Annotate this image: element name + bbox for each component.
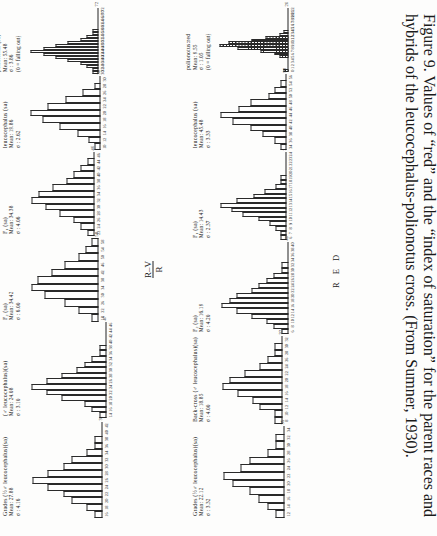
plot-area-red-grades: 35 bbox=[214, 426, 284, 518]
category-tick: 26 bbox=[96, 218, 100, 222]
category-tick: 20 bbox=[104, 499, 108, 503]
histogram-bar bbox=[260, 50, 288, 53]
category-tick: 7 bbox=[288, 232, 292, 234]
histogram-bar bbox=[259, 363, 282, 370]
plot-area-red-polionotus: 26 bbox=[214, 8, 288, 72]
category-tick: 46 bbox=[108, 323, 112, 327]
category-tick: 38 bbox=[108, 345, 112, 349]
category-tick: 54 bbox=[288, 81, 292, 85]
histogram-bar bbox=[80, 165, 94, 171]
category-tick: 6 bbox=[290, 53, 294, 55]
panel-header-red-f2: F₂ (sa)Mean: 16.19σ : 4.20 bbox=[191, 304, 211, 332]
panel-stat-0: Mean: 16.19 bbox=[197, 304, 204, 332]
category-scale-sat-f1: 22242628303234363840424446 bbox=[96, 152, 102, 236]
histogram-bar bbox=[84, 401, 106, 407]
category-tick: 10 bbox=[290, 319, 294, 323]
histogram-bar bbox=[61, 395, 106, 401]
histogram-bar bbox=[31, 384, 106, 390]
category-scale-red-backcross: 8101214161820222426283032 bbox=[284, 336, 290, 424]
axis-end-tick: 58 bbox=[282, 68, 287, 72]
category-tick: 24 bbox=[108, 385, 112, 389]
category-tick: 20 bbox=[108, 396, 112, 400]
histogram-bar bbox=[249, 457, 284, 465]
category-tick: 34 bbox=[104, 451, 108, 455]
category-tick: 38 bbox=[100, 278, 104, 282]
axis-end-tick: 58 bbox=[94, 232, 99, 236]
category-tick: 14 bbox=[286, 504, 290, 508]
category-tick: 44 bbox=[108, 328, 112, 332]
histogram-sat-polionotus: polionotus (sa)Mean: 55.48σ : 3.86(0 = f… bbox=[24, 8, 98, 74]
histogram-bar bbox=[236, 293, 288, 298]
histogram-bar bbox=[32, 477, 102, 484]
histogram-bar bbox=[55, 44, 98, 47]
histogram-bar bbox=[47, 484, 102, 491]
category-tick: 40 bbox=[108, 340, 112, 344]
histogram-red-f1: F₁ (sa)Mean: 14.43σ : 2.3723767891011121… bbox=[214, 152, 286, 240]
category-tick: 54 bbox=[100, 247, 104, 251]
category-tick: 34 bbox=[286, 428, 290, 432]
category-tick: 14 bbox=[290, 309, 294, 313]
histogram-bar bbox=[52, 184, 94, 190]
plot-area-red-backcross: 32 bbox=[214, 336, 282, 424]
histogram-bar bbox=[251, 288, 288, 293]
category-tick: 5 bbox=[290, 56, 294, 58]
histogram-bar bbox=[67, 59, 98, 62]
category-scale-sat-polionotus: 3032343638404244464850525456586062646668… bbox=[100, 8, 106, 74]
category-tick: 18 bbox=[290, 299, 294, 303]
category-tick: 46 bbox=[96, 153, 100, 157]
category-tick: 16 bbox=[290, 304, 294, 308]
histogram-bar bbox=[269, 221, 286, 226]
category-tick: 22 bbox=[286, 474, 290, 478]
histogram-sat-grades: Grades (½♂ leucocephalus)(sa)Mean: 27.88… bbox=[24, 422, 102, 518]
histogram-bar bbox=[219, 44, 288, 47]
histogram-bar bbox=[43, 47, 99, 50]
histogram-bar bbox=[80, 223, 94, 229]
histogram-bar bbox=[37, 276, 98, 284]
panel-title: polionotus:red bbox=[184, 34, 191, 70]
category-tick: 26 bbox=[104, 478, 108, 482]
histogram-bar bbox=[265, 36, 288, 39]
category-tick: 36 bbox=[96, 185, 100, 189]
histogram-bar bbox=[251, 39, 288, 42]
category-tick: 22 bbox=[102, 104, 106, 108]
histogram-bar bbox=[78, 307, 98, 315]
category-tick: 26 bbox=[284, 358, 288, 362]
histogram-bar bbox=[237, 390, 282, 397]
category-tick: 30 bbox=[102, 77, 106, 81]
histogram-bar bbox=[86, 504, 102, 511]
histogram-bar bbox=[85, 246, 98, 254]
histogram-bar bbox=[229, 298, 288, 303]
category-tick: 26 bbox=[290, 278, 294, 282]
category-tick: 46 bbox=[288, 107, 292, 111]
category-tick: 4 bbox=[290, 58, 294, 60]
category-tick: 24 bbox=[102, 97, 106, 101]
category-tick: 14 bbox=[108, 413, 112, 417]
saturation-numerator: R–V bbox=[142, 261, 152, 278]
caption-source: Sumner bbox=[403, 359, 420, 408]
histogram-sat-grades-male: (♂ leucocephalus)(sa)Mean: 24.08σ : 3.10… bbox=[24, 322, 106, 418]
histogram-bar bbox=[66, 178, 94, 184]
category-tick: 20 bbox=[290, 294, 294, 298]
category-tick: 16 bbox=[288, 189, 292, 193]
category-tick: 32 bbox=[286, 435, 290, 439]
histogram-bar bbox=[31, 284, 98, 292]
axis-end-tick: 26 bbox=[284, 2, 289, 6]
category-tick: 0 bbox=[290, 70, 294, 72]
figure-page: polionotus:redMean: 9.55σ : 1.05(0 = fal… bbox=[0, 0, 437, 536]
panel-title: (♂ leucocephalus)(sa) bbox=[1, 361, 8, 416]
category-tick: 42 bbox=[288, 119, 292, 123]
panel-stat-0: Mean: 34.38 bbox=[7, 206, 14, 234]
histogram-bar bbox=[44, 291, 98, 299]
category-tick: 42 bbox=[96, 166, 100, 170]
category-tick: 26 bbox=[100, 301, 104, 305]
category-scale-red-polionotus: 012345678910111213141516171819202122 bbox=[290, 8, 296, 72]
histogram-bar bbox=[267, 356, 282, 363]
category-tick: 16 bbox=[286, 497, 290, 501]
category-tick: 36 bbox=[288, 138, 292, 142]
category-tick: 30 bbox=[284, 344, 288, 348]
baseline-axis bbox=[105, 322, 106, 418]
histogram-bar bbox=[266, 319, 288, 324]
histogram-bar bbox=[274, 87, 286, 93]
histogram-bar bbox=[71, 497, 102, 504]
histogram-bar bbox=[244, 370, 282, 377]
